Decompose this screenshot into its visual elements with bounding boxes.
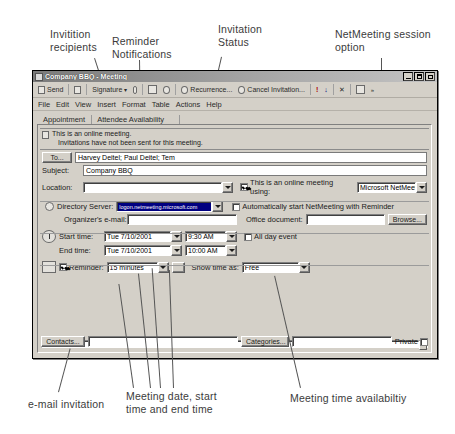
- start-time-row: Start time: Tue 7/10/2001 9:30 AM All da…: [42, 230, 427, 243]
- signature-button[interactable]: Signature ▾: [90, 84, 129, 96]
- browse-button[interactable]: Browse...: [388, 214, 427, 225]
- menu-file[interactable]: File: [38, 100, 50, 109]
- reminder-sound-icon[interactable]: [172, 262, 185, 273]
- location-row: Location: This is an online meeting usin…: [42, 178, 427, 196]
- info-line-1: This is an online meeting.: [52, 130, 203, 139]
- menu-help[interactable]: Help: [206, 100, 221, 109]
- toolbar-separator: [310, 84, 311, 95]
- annotation-line: Meeting date, start: [126, 390, 217, 403]
- importance-low-button[interactable]: ↓: [322, 84, 330, 96]
- more-buttons[interactable]: »: [369, 84, 376, 96]
- to-row: To... Harvey Deitel; Paul Deitel; Tem: [42, 152, 427, 163]
- end-date-input[interactable]: Tue 7/10/2001: [104, 245, 171, 256]
- directory-server-input[interactable]: logon.netmeeting.microsoft.com: [116, 201, 212, 212]
- online-meeting-provider-value[interactable]: Microsoft NetMeeting: [357, 182, 416, 193]
- importance-low-icon: ↓: [324, 86, 328, 93]
- annotation-line: recipients: [50, 41, 97, 54]
- previous-item-button[interactable]: [354, 84, 367, 96]
- menu-table[interactable]: Table: [152, 100, 170, 109]
- insert-object-button[interactable]: [161, 84, 172, 96]
- meeting-window-icon: [35, 73, 43, 81]
- subject-row: Subject: Company BBQ: [42, 165, 427, 176]
- annotation-netmeeting-session-option: NetMeeting session option: [335, 28, 431, 53]
- importance-high-button[interactable]: !: [314, 84, 320, 96]
- annotation-line: Notifications: [112, 48, 172, 61]
- reminder-input[interactable]: 15 minutes: [107, 262, 158, 273]
- tab-strip: Appointment Attendee Availability: [33, 111, 437, 125]
- menu-view[interactable]: View: [75, 100, 91, 109]
- cancel-invitation-button[interactable]: Cancel Invitation...: [236, 84, 307, 96]
- recurrence-button[interactable]: Recurrence...: [179, 84, 234, 96]
- chevron-down-icon[interactable]: [158, 262, 169, 273]
- minimize-button[interactable]: [403, 72, 413, 81]
- chevron-down-icon[interactable]: [299, 262, 310, 273]
- annotation-invitation-status: Invitation Status: [218, 23, 262, 48]
- show-time-as-combo[interactable]: Free: [242, 262, 310, 273]
- section-divider: [40, 265, 429, 266]
- contacts-input[interactable]: [88, 336, 238, 347]
- contacts-button[interactable]: Contacts...: [41, 336, 85, 347]
- recurrence-button-label: Recurrence...: [190, 86, 232, 93]
- send-button[interactable]: Send: [36, 84, 65, 96]
- annotation-line: Meeting time availabiltiy: [290, 392, 406, 405]
- close-button[interactable]: [425, 72, 435, 81]
- online-meeting-provider-combo[interactable]: Microsoft NetMeeting: [357, 182, 427, 193]
- menu-edit[interactable]: Edit: [56, 100, 69, 109]
- categories-input[interactable]: [292, 336, 392, 347]
- end-date-combo[interactable]: Tue 7/10/2001: [104, 245, 182, 256]
- auto-start-label: Automatically start NetMeeting with Remi…: [242, 202, 394, 211]
- show-time-as-input[interactable]: Free: [242, 262, 299, 273]
- toolbar-separator: [333, 84, 334, 95]
- reminder-checkbox[interactable]: [59, 263, 67, 271]
- auto-start-checkbox[interactable]: [232, 203, 240, 211]
- maximize-button[interactable]: [414, 72, 424, 81]
- annotation-line: time and end time: [126, 403, 217, 416]
- to-button[interactable]: To...: [42, 152, 72, 163]
- end-time-input[interactable]: 10:00 AM: [185, 245, 226, 256]
- end-time-row: End time: Tue 7/10/2001 10:00 AM: [42, 245, 427, 256]
- online-meeting-checkbox-label: This is an online meeting using:: [250, 178, 354, 196]
- private-checkbox-group[interactable]: Private: [395, 337, 428, 346]
- chevron-down-icon[interactable]: [416, 182, 427, 193]
- toolbar-separator: [68, 84, 69, 95]
- location-input[interactable]: [83, 182, 222, 193]
- menu-insert[interactable]: Insert: [97, 100, 116, 109]
- private-checkbox[interactable]: [420, 338, 428, 346]
- directory-server-combo[interactable]: logon.netmeeting.microsoft.com: [116, 201, 223, 212]
- reminder-combo[interactable]: 15 minutes: [107, 262, 169, 273]
- importance-high-icon: !: [316, 86, 318, 93]
- paperclip-icon: [133, 86, 137, 94]
- reminder-checkbox-group[interactable]: Reminder:: [59, 263, 104, 272]
- auto-start-checkbox-group[interactable]: Automatically start NetMeeting with Remi…: [232, 202, 394, 211]
- online-meeting-checkbox[interactable]: [240, 183, 248, 191]
- end-time-combo[interactable]: 10:00 AM: [185, 245, 237, 256]
- bell-icon: [42, 261, 56, 273]
- window-controls: [403, 72, 435, 81]
- end-time-label: End time:: [59, 246, 101, 255]
- insert-item-button[interactable]: [146, 84, 159, 96]
- toolbar-separator: [175, 84, 176, 95]
- print-button[interactable]: [72, 84, 83, 96]
- chevron-down-icon[interactable]: [222, 182, 233, 193]
- annotation-email-invitation: e-mail invitation: [28, 398, 104, 411]
- location-combo[interactable]: [83, 182, 233, 193]
- office-document-input[interactable]: [306, 214, 385, 225]
- cancel-invitation-icon: [238, 86, 245, 94]
- organizer-email-input[interactable]: [127, 214, 237, 225]
- to-input[interactable]: Harvey Deitel; Paul Deitel; Tem: [75, 152, 427, 163]
- menu-format[interactable]: Format: [122, 100, 146, 109]
- chevron-down-icon[interactable]: [226, 245, 237, 256]
- annotation-line: e-mail invitation: [28, 398, 104, 411]
- chevron-down-icon[interactable]: [171, 245, 182, 256]
- annotation-line: Reminder: [112, 35, 172, 48]
- organizer-row: Organizer's e-mail: Office document: Bro…: [42, 214, 427, 225]
- chevron-down-icon[interactable]: [212, 201, 223, 212]
- window-titlebar[interactable]: Company BBQ - Meeting: [33, 71, 437, 82]
- all-day-checkbox[interactable]: [244, 233, 252, 241]
- menu-actions[interactable]: Actions: [176, 100, 201, 109]
- online-meeting-checkbox-group[interactable]: This is an online meeting using:: [240, 178, 354, 196]
- attach-button[interactable]: [131, 84, 139, 96]
- subject-input[interactable]: Company BBQ: [83, 165, 427, 176]
- categories-button[interactable]: Categories...: [241, 336, 289, 347]
- delete-button[interactable]: ✕: [337, 84, 347, 96]
